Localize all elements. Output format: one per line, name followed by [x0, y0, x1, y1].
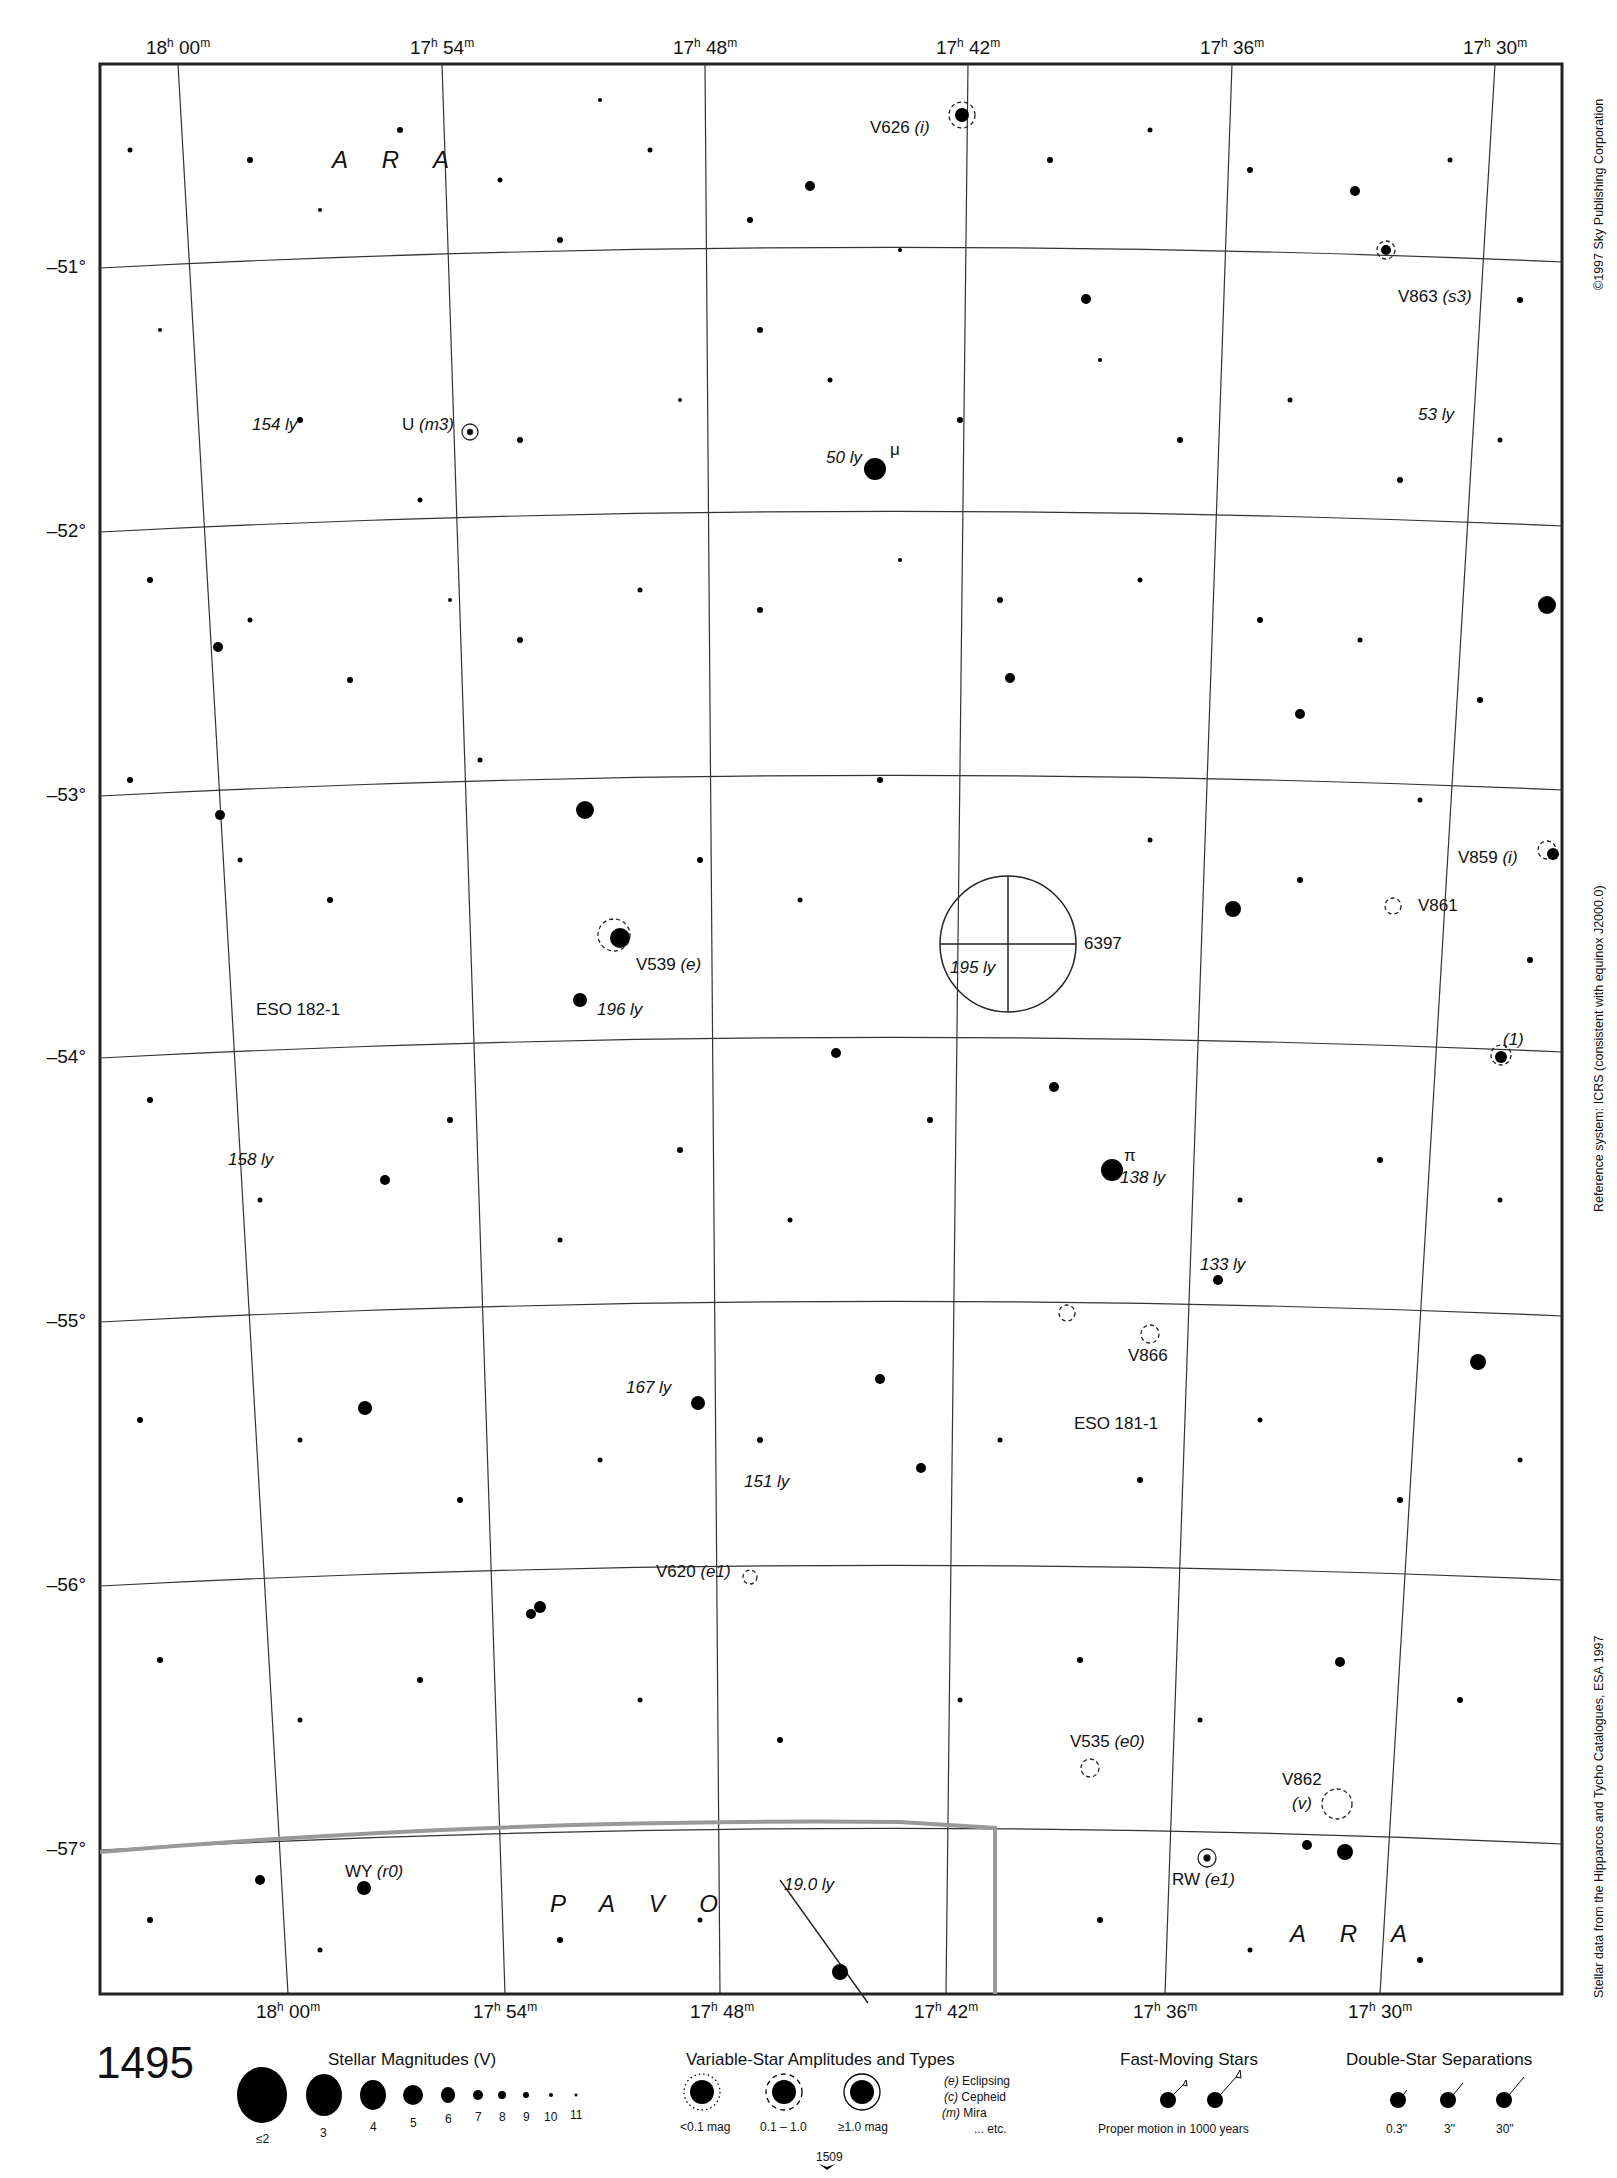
legend-fast-moving-title: Fast-Moving Stars — [1120, 2050, 1258, 2070]
label-distance: 19.0 ly — [784, 1875, 834, 1895]
label-distance: 196 ly — [597, 1000, 642, 1020]
ra-bottom-label: 17h 48m — [690, 2000, 754, 2023]
label-eso-182-1: ESO 182-1 — [256, 1000, 340, 1020]
legend-double-star-symbols — [1390, 2077, 1524, 2108]
separation-label: 0.3" — [1386, 2122, 1407, 2136]
dec-gridlines — [100, 247, 1562, 1850]
ra-bottom-label: 17h 54m — [473, 2000, 537, 2023]
label-distance: 195 ly — [950, 958, 995, 978]
constellation-boundary — [100, 1822, 995, 1994]
ra-bottom-label: 17h 42m — [914, 2000, 978, 2023]
label-distance: 158 ly — [228, 1150, 273, 1170]
label-v620: V620 (e1) — [656, 1562, 731, 1582]
amplitude-label: 0.1 – 1.0 — [760, 2120, 807, 2134]
variable-star-rings — [598, 102, 1556, 1819]
mag-label: ≤2 — [256, 2132, 269, 2146]
label-v535: V535 (e0) — [1070, 1732, 1145, 1752]
label-distance: 167 ly — [626, 1378, 671, 1398]
label-distance: 53 ly — [1418, 405, 1454, 425]
mag-label: 5 — [410, 2116, 417, 2130]
chart-frame — [100, 64, 1562, 1994]
label-1: (1) — [1503, 1030, 1524, 1050]
label-v861: V861 — [1418, 896, 1458, 916]
constellation-ara: A R A — [332, 146, 463, 174]
copyright-text: ©1997 Sky Publishing Corporation — [1592, 99, 1606, 290]
mag-label: 9 — [523, 2110, 530, 2124]
ra-bottom-label: 17h 30m — [1348, 2000, 1412, 2023]
label-mu: μ — [890, 440, 900, 460]
label-v862-type: (v) — [1292, 1794, 1312, 1814]
label-distance: 151 ly — [744, 1472, 789, 1492]
type-entry: (m) Mira — [942, 2106, 987, 2120]
label-v866: V866 — [1128, 1346, 1168, 1366]
label-v626: V626 (i) — [870, 118, 930, 138]
dec-label: –56° — [6, 1574, 86, 1596]
mira-rings — [462, 424, 1216, 1867]
dec-label: –55° — [6, 1310, 86, 1332]
dec-label: –53° — [6, 784, 86, 806]
label-distance: 154 ly — [252, 415, 297, 435]
amplitude-label: ≥1.0 mag — [838, 2120, 888, 2134]
type-entry: (c) Cepheid — [944, 2090, 1006, 2104]
legend-double-stars-title: Double-Star Separations — [1346, 2050, 1532, 2070]
label-distance: 50 ly — [826, 448, 862, 468]
label-v863: V863 (s3) — [1398, 287, 1472, 307]
amplitude-label: <0.1 mag — [680, 2120, 730, 2134]
proper-motion-vector — [780, 1880, 868, 2003]
label-pi: π — [1124, 1146, 1136, 1166]
ra-top-label: 17h 36m — [1200, 36, 1264, 59]
star-chart — [0, 0, 1617, 2178]
type-entry: ... etc. — [974, 2122, 1007, 2136]
constellation-pavo: P A V O — [550, 1890, 732, 1918]
ra-gridlines — [178, 64, 1495, 1994]
ra-top-label: 17h 54m — [410, 36, 474, 59]
mag-label: 11 — [570, 2108, 582, 2122]
ra-top-label: 17h 30m — [1463, 36, 1527, 59]
label-v859: V859 (i) — [1458, 848, 1518, 868]
ra-top-label: 18h 00m — [146, 36, 210, 59]
mag-label: 4 — [370, 2120, 377, 2134]
proper-motion-caption: Proper motion in 1000 years — [1098, 2122, 1249, 2136]
dec-label: –57° — [6, 1838, 86, 1860]
faint-stars — [127, 98, 1533, 1963]
ra-top-label: 17h 42m — [936, 36, 1000, 59]
type-entry: (e) Eclipsing — [944, 2074, 1010, 2088]
dec-label: –51° — [6, 256, 86, 278]
dec-label: –54° — [6, 1046, 86, 1068]
mag-label: 6 — [445, 2112, 452, 2126]
label-distance: 138 ly — [1120, 1168, 1165, 1188]
mag-label: 8 — [499, 2110, 506, 2124]
ra-bottom-label: 17h 36m — [1133, 2000, 1197, 2023]
mag-label: 10 — [544, 2110, 557, 2124]
label-distance: 133 ly — [1200, 1255, 1245, 1275]
label-v862: V862 — [1282, 1770, 1322, 1790]
legend-fast-moving-symbols — [1160, 2070, 1241, 2108]
mag-label: 7 — [475, 2110, 482, 2124]
ra-top-label: 17h 48m — [673, 36, 737, 59]
page-number: 1495 — [96, 2038, 194, 2088]
label-ngc-6397: 6397 — [1084, 934, 1122, 954]
legend-magnitudes-title: Stellar Magnitudes (V) — [328, 2050, 496, 2070]
reference-system-text: Reference system: ICRS (consistent with … — [1592, 885, 1606, 1212]
mag-label: 3 — [320, 2126, 327, 2140]
legend-variables-title: Variable-Star Amplitudes and Types — [686, 2050, 955, 2070]
ra-bottom-label: 18h 00m — [256, 2000, 320, 2023]
constellation-ara: A R A — [1290, 1920, 1421, 1948]
label-v539: V539 (e) — [636, 955, 701, 975]
cluster-6397-symbol — [940, 876, 1076, 1012]
label-eso-181-1: ESO 181-1 — [1074, 1414, 1158, 1434]
data-source-text: Stellar data from the Hipparcos and Tych… — [1592, 1636, 1606, 1999]
label-u-ara: U (m3) — [402, 415, 454, 435]
separation-label: 30" — [1496, 2122, 1514, 2136]
label-rw: RW (e1) — [1172, 1870, 1235, 1890]
label-wy: WY (r0) — [345, 1862, 403, 1882]
dec-label: –52° — [6, 520, 86, 542]
separation-label: 3" — [1444, 2122, 1455, 2136]
next-page-link[interactable]: 1509 — [816, 2150, 843, 2164]
